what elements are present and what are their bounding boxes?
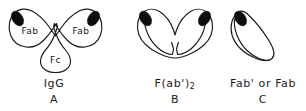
- region-label-fc: Fc: [50, 55, 61, 65]
- caption-name-fab2-text: F(ab'): [155, 77, 190, 90]
- caption-letter-fab: C: [220, 93, 306, 106]
- region-label-fab-left: Fab: [22, 26, 39, 36]
- caption-letter-igg-text: A: [50, 93, 58, 106]
- caption-name-fab2: F(ab')2: [130, 77, 220, 91]
- caption-name-igg-text: IgG: [44, 77, 65, 90]
- caption-name-fab-text: Fab' or Fab: [230, 77, 296, 90]
- caption-letter-fab2: B: [130, 93, 220, 106]
- panel-igg: Fab Fab Fc IgG A: [0, 0, 130, 111]
- panel-fab: Fab' or Fab C: [220, 0, 306, 111]
- caption-letter-igg: A: [0, 93, 119, 106]
- antibody-fragment-diagram: Fab Fab Fc IgG A F(ab')2 B: [0, 0, 306, 111]
- fab2-shape: [130, 2, 220, 76]
- caption-name-fab2-subscript: 2: [190, 82, 196, 91]
- fab-shape: [220, 2, 306, 76]
- caption-name-fab: Fab' or Fab: [220, 77, 306, 90]
- panel-fab2: F(ab')2 B: [130, 0, 220, 111]
- caption-letter-fab2-text: B: [171, 93, 179, 106]
- caption-name-igg: IgG: [0, 77, 119, 90]
- igg-shape: Fab Fab Fc: [0, 2, 130, 76]
- region-label-fab-right: Fab: [73, 26, 90, 36]
- caption-letter-fab-text: C: [259, 93, 267, 106]
